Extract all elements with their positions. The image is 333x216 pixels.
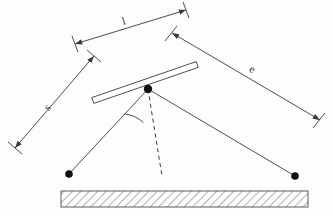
normal-line (148, 89, 162, 176)
dimension-s-tick-low (8, 142, 22, 154)
dimension-l-tick-right (183, 2, 189, 18)
dimension-e-tick-high (165, 26, 177, 41)
dimension-e-label: e (248, 62, 258, 75)
dimension-l: l (72, 2, 189, 52)
diagram-canvas: l s e (0, 0, 333, 216)
reflected-endpoint-dot (291, 172, 299, 180)
dimension-l-tick-left (72, 36, 78, 52)
diagram-svg: l s e (0, 0, 333, 216)
dimension-s: s (8, 50, 101, 154)
mirror-bar-body (92, 62, 198, 104)
dimension-l-label: l (120, 14, 126, 26)
dimension-s-line (15, 56, 94, 148)
incident-ray (69, 89, 148, 174)
hatched-ground-block (61, 191, 308, 207)
reflected-ray (148, 89, 295, 176)
dimension-e: e (165, 26, 325, 128)
dimension-l-line (75, 10, 186, 44)
ground-block-rect (61, 191, 308, 207)
incident-endpoint-dot (65, 170, 73, 178)
dimension-e-tick-low (313, 113, 325, 128)
mirror-bar (92, 62, 198, 104)
angle-arc (125, 114, 144, 123)
dimension-e-line (172, 33, 320, 120)
dimension-s-label: s (41, 101, 53, 112)
pivot-point (144, 85, 152, 93)
dimension-s-tick-high (87, 50, 101, 62)
